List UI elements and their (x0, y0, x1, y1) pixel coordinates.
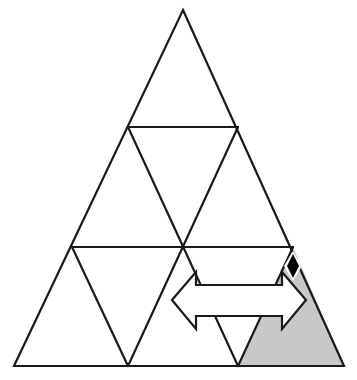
figure-root: Subdivided equilateral triangle with sha… (0, 0, 357, 380)
triangle-diagram-svg: Subdivided equilateral triangle with sha… (0, 0, 357, 380)
